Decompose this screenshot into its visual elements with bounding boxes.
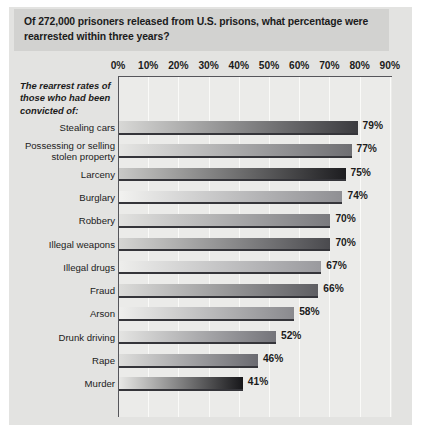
bar-label-fraud: Fraud bbox=[3, 285, 115, 296]
bar-fill bbox=[119, 121, 358, 133]
bar-value-rape: 46% bbox=[263, 353, 283, 364]
bar-value-possessing-or-selling-stolen-property: 77% bbox=[357, 143, 377, 154]
bar-possessing-or-selling-stolen-property bbox=[119, 144, 352, 158]
bar-label-stealing-cars: Stealing cars bbox=[3, 122, 115, 133]
bar-underline bbox=[119, 156, 352, 158]
bar-underline bbox=[119, 366, 258, 368]
bar-fill bbox=[119, 214, 330, 226]
bar-value-illegal-weapons: 70% bbox=[335, 237, 355, 248]
bar-underline bbox=[119, 342, 276, 344]
y-axis-caption: The rearrest rates of those who had been… bbox=[20, 80, 115, 117]
bar-underline bbox=[119, 296, 318, 298]
bar-label-arson: Arson bbox=[3, 308, 115, 319]
bar-row: Robbery70% bbox=[0, 214, 421, 237]
bar-rape bbox=[119, 354, 258, 368]
bar-stealing-cars bbox=[119, 121, 358, 135]
chart-title: Of 272,000 prisoners released from U.S. … bbox=[24, 15, 382, 44]
bar-arson bbox=[119, 307, 294, 321]
bar-label-illegal-weapons: Illegal weapons bbox=[3, 239, 115, 250]
bar-value-arson: 58% bbox=[299, 306, 319, 317]
bar-fill bbox=[119, 238, 330, 250]
bar-fill bbox=[119, 168, 346, 180]
bar-value-burglary: 74% bbox=[347, 190, 367, 201]
bar-robbery bbox=[119, 214, 330, 228]
x-axis-tick-90: 90% bbox=[370, 60, 410, 71]
bar-value-larceny: 75% bbox=[351, 167, 371, 178]
bar-label-burglary: Burglary bbox=[3, 192, 115, 203]
bar-illegal-drugs bbox=[119, 261, 321, 275]
bar-drunk-driving bbox=[119, 331, 276, 345]
bar-fill bbox=[119, 377, 243, 389]
bar-underline bbox=[119, 226, 330, 228]
bar-underline bbox=[119, 179, 346, 181]
bar-fill bbox=[119, 261, 321, 273]
bar-value-stealing-cars: 79% bbox=[363, 120, 383, 131]
bar-label-murder: Murder bbox=[3, 378, 115, 389]
bar-row: Illegal weapons70% bbox=[0, 238, 421, 261]
bar-row: Larceny75% bbox=[0, 168, 421, 191]
bar-fill bbox=[119, 144, 352, 156]
bar-row: Drunk driving52% bbox=[0, 331, 421, 354]
bar-value-drunk-driving: 52% bbox=[281, 330, 301, 341]
chart-title-band: Of 272,000 prisoners released from U.S. … bbox=[14, 9, 389, 51]
bar-underline bbox=[119, 133, 358, 135]
bar-row: Burglary74% bbox=[0, 191, 421, 214]
bar-underline bbox=[119, 389, 243, 391]
bar-value-murder: 41% bbox=[248, 376, 268, 387]
bar-label-illegal-drugs: Illegal drugs bbox=[3, 262, 115, 273]
bar-underline bbox=[119, 202, 342, 204]
bar-burglary bbox=[119, 191, 342, 205]
bar-label-rape: Rape bbox=[3, 355, 115, 366]
bar-row: Fraud66% bbox=[0, 284, 421, 307]
bar-larceny bbox=[119, 168, 346, 182]
bar-fill bbox=[119, 331, 276, 343]
bar-underline bbox=[119, 249, 330, 251]
bar-row: Arson58% bbox=[0, 307, 421, 330]
bar-row: Illegal drugs67% bbox=[0, 261, 421, 284]
bar-illegal-weapons bbox=[119, 238, 330, 252]
bar-underline bbox=[119, 272, 321, 274]
bar-fill bbox=[119, 191, 342, 203]
bar-row: Rape46% bbox=[0, 354, 421, 377]
bar-value-illegal-drugs: 67% bbox=[326, 260, 346, 271]
bar-murder bbox=[119, 377, 243, 391]
bar-label-possessing-or-selling-stolen-property: Possessing or sellingstolen property bbox=[3, 140, 115, 163]
bar-label-larceny: Larceny bbox=[3, 169, 115, 180]
bar-label-robbery: Robbery bbox=[3, 215, 115, 226]
bar-fill bbox=[119, 354, 258, 366]
bar-value-fraud: 66% bbox=[323, 283, 343, 294]
bar-fill bbox=[119, 307, 294, 319]
bar-fill bbox=[119, 284, 318, 296]
bar-row: Possessing or sellingstolen property77% bbox=[0, 144, 421, 167]
chart-figure: Of 272,000 prisoners released from U.S. … bbox=[0, 0, 421, 431]
bar-label-drunk-driving: Drunk driving bbox=[3, 332, 115, 343]
bar-row: Murder41% bbox=[0, 377, 421, 400]
bar-value-robbery: 70% bbox=[335, 213, 355, 224]
bar-fraud bbox=[119, 284, 318, 298]
bar-underline bbox=[119, 319, 294, 321]
